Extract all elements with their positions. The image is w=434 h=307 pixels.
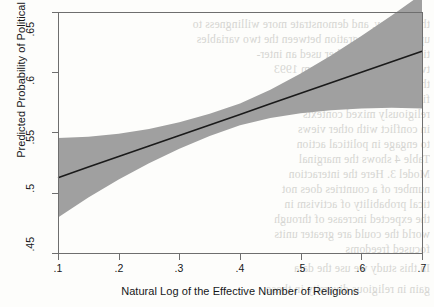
confidence-band-group bbox=[58, 0, 422, 217]
plot-area bbox=[0, 0, 434, 307]
confidence-band bbox=[58, 0, 422, 217]
fit-line-group bbox=[58, 51, 422, 178]
fit-line bbox=[58, 51, 422, 178]
chart-figure: Predicted Probability of Political Activ… bbox=[0, 0, 434, 307]
